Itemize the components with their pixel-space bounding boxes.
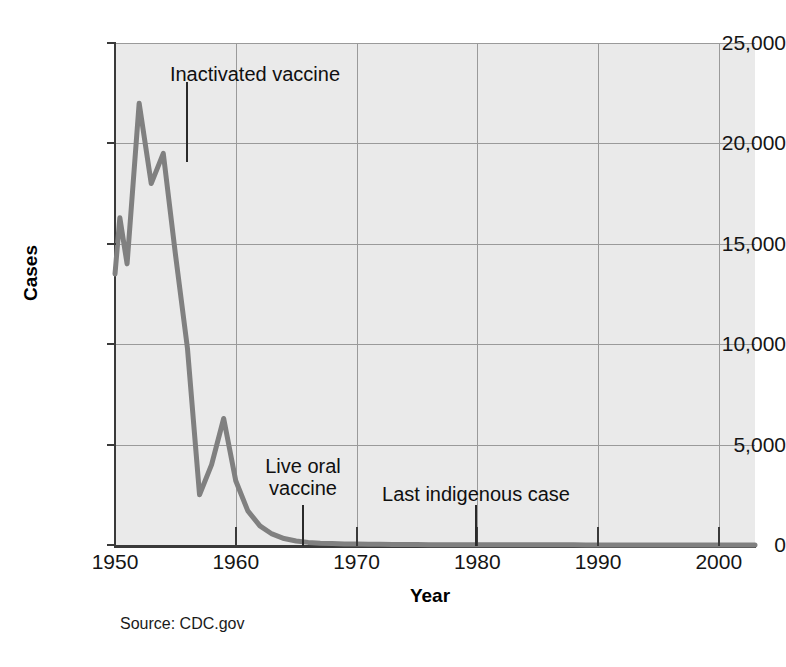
gridline-horizontal	[115, 244, 755, 245]
annotation-leader-line	[186, 82, 188, 162]
y-axis-title: Cases	[20, 271, 42, 301]
x-axis-tick-label: 1980	[417, 551, 537, 572]
y-axis-line	[114, 43, 116, 546]
x-axis-line	[114, 545, 756, 548]
y-axis-tick	[107, 544, 116, 546]
y-axis-tick	[107, 243, 116, 245]
annotation-leader-line	[302, 505, 304, 546]
gridline-horizontal	[115, 43, 755, 44]
x-axis-tick-label: 1970	[297, 551, 417, 572]
x-axis-tick	[718, 527, 720, 546]
y-axis-tick	[107, 444, 116, 446]
x-axis-tick	[356, 527, 358, 546]
y-axis-tick-label: 25,000	[686, 32, 786, 53]
y-axis-tick-label: 15,000	[686, 233, 786, 254]
x-axis-tick	[235, 527, 237, 546]
chart-figure: 05,00010,00015,00020,00025,0001950196019…	[0, 0, 786, 667]
y-axis-tick	[107, 343, 116, 345]
chart-annotation-label: Inactivated vaccine	[105, 63, 405, 85]
x-axis-tick-label: 1960	[176, 551, 296, 572]
x-axis-title: Year	[360, 585, 500, 607]
x-axis-tick-label: 1950	[55, 551, 175, 572]
gridline-vertical	[598, 43, 599, 545]
gridline-horizontal	[115, 445, 755, 446]
gridline-horizontal	[115, 143, 755, 144]
gridline-vertical	[477, 43, 478, 545]
y-axis-tick-label: 20,000	[686, 132, 786, 153]
y-axis-tick	[107, 42, 116, 44]
y-axis-tick-label: 5,000	[686, 434, 786, 455]
y-axis-tick-label: 10,000	[686, 333, 786, 354]
annotation-leader-line	[475, 505, 477, 546]
gridline-horizontal	[115, 344, 755, 345]
x-axis-tick-label: 2000	[659, 551, 779, 572]
y-axis-tick	[107, 142, 116, 144]
x-axis-tick	[597, 527, 599, 546]
chart-annotation-label: Last indigenous case	[326, 483, 626, 505]
source-note: Source: CDC.gov	[120, 615, 245, 633]
x-axis-tick-label: 1990	[538, 551, 658, 572]
gridline-vertical	[719, 43, 720, 545]
